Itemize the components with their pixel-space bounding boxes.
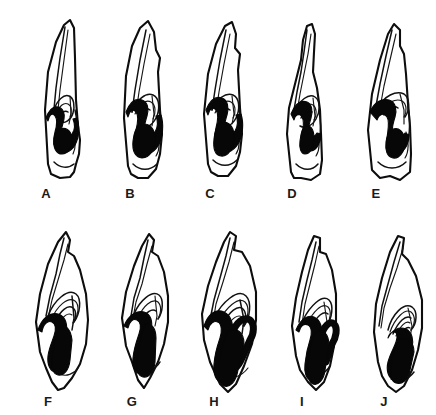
specimen-label-g: G <box>122 394 142 409</box>
specimen-j <box>352 222 426 394</box>
specimen-label-h: H <box>204 394 224 409</box>
enamel-blob-a <box>54 128 72 154</box>
specimen-label-j: J <box>374 394 394 409</box>
specimen-label-f: F <box>38 394 58 409</box>
specimen-a <box>18 14 84 182</box>
enamel-blob-e <box>386 129 405 158</box>
specimen-label-e: E <box>366 186 386 201</box>
specimen-f <box>16 222 94 392</box>
specimen-label-d: D <box>282 186 302 201</box>
specimen-d <box>265 14 327 184</box>
specimen-b <box>100 14 170 182</box>
specimen-label-a: A <box>36 186 56 201</box>
specimen-h <box>182 222 262 394</box>
specimen-g <box>102 222 174 392</box>
specimen-label-c: C <box>200 186 220 201</box>
specimen-e <box>348 14 418 184</box>
specimen-i <box>272 222 342 394</box>
specimen-c <box>182 14 248 182</box>
specimen-label-b: B <box>120 186 140 201</box>
specimen-label-i: I <box>292 394 312 409</box>
figure-plate: ABCDEFGHIJ <box>0 0 436 415</box>
